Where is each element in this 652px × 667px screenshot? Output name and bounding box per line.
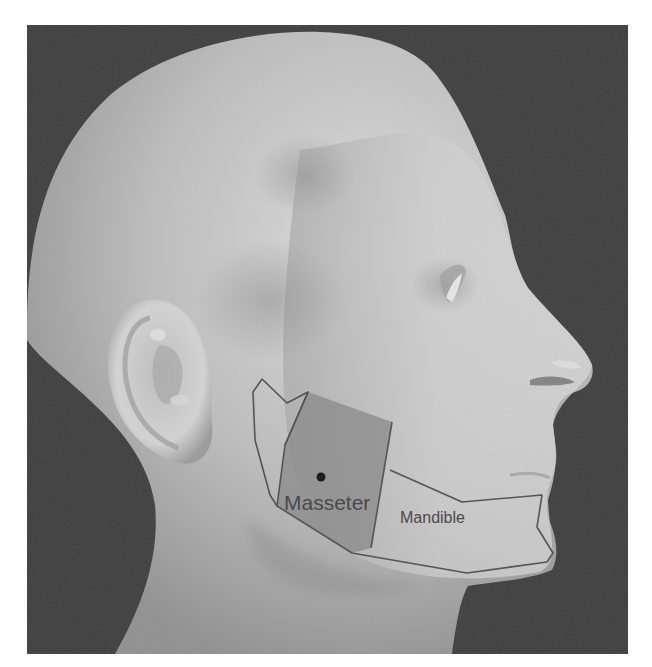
masseter-marker-dot	[317, 473, 326, 482]
anatomical-figure: Masseter Mandible	[0, 0, 652, 667]
masseter-label: Masseter	[284, 491, 370, 514]
figure-canvas: Masseter Mandible	[0, 0, 652, 667]
head-photo	[27, 25, 628, 654]
mandible-label: Mandible	[400, 509, 465, 526]
